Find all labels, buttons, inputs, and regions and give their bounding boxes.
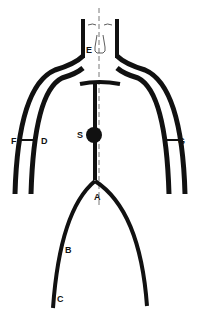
label-a: A — [94, 193, 101, 202]
label-c: C — [57, 295, 64, 304]
branching-diagram — [0, 0, 197, 320]
label-f: F — [11, 137, 17, 146]
lower-limb-left — [53, 181, 95, 308]
label-e: E — [86, 46, 92, 55]
label-g: G — [178, 137, 185, 146]
crossbar — [80, 82, 120, 84]
label-d: D — [41, 137, 48, 146]
lower-limb-right — [95, 181, 147, 306]
label-b: B — [65, 246, 72, 255]
node-s — [86, 127, 102, 143]
label-s: S — [77, 131, 83, 140]
